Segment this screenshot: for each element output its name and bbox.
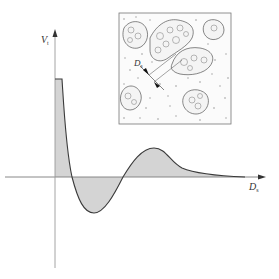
hump-shaded-area [123, 148, 245, 177]
aggregate-6 [183, 90, 209, 114]
y-axis-label: Vt [41, 34, 49, 46]
x-axis-arrow-icon [258, 175, 266, 180]
y-axis-arrow-icon [53, 29, 58, 37]
x-axis-label: Ds [248, 181, 259, 193]
potential-diagram: Vt Ds [0, 0, 279, 279]
aggregate-5 [120, 86, 141, 110]
inset-microstructure: Ds [119, 13, 231, 124]
well-shaded-area [72, 177, 123, 213]
aggregate-3 [203, 20, 224, 40]
